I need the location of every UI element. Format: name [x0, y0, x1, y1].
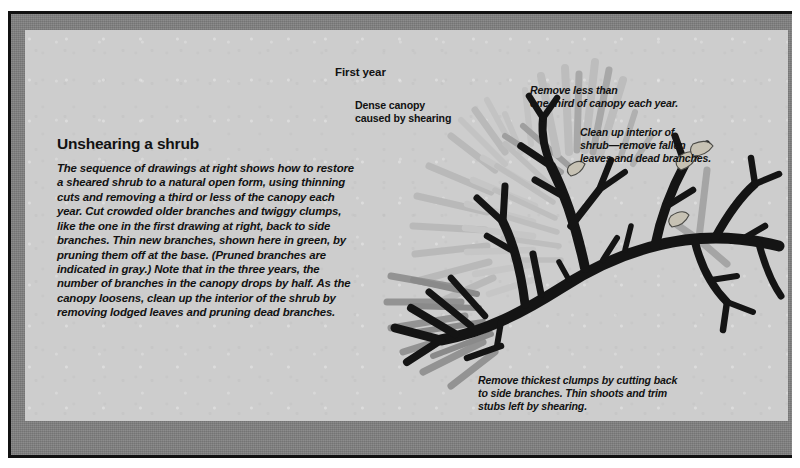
intro-line: cuts and removing a third or less of the…: [57, 190, 345, 204]
illustration-page: Unshearing a shrub The sequence of drawi…: [0, 0, 800, 468]
callout-line: Dense canopy: [355, 99, 451, 112]
intro-line: year. Cut crowded older branches and twi…: [57, 204, 345, 218]
intro-line: like the one in the first drawing at rig…: [57, 219, 345, 233]
intro-paragraph: The sequence of drawings at right shows …: [57, 161, 345, 320]
callout-remove-one-third: Remove less than one third of canopy eac…: [530, 84, 678, 110]
intro-line: branches. Thin new branches, shown here …: [57, 233, 345, 247]
callout-line: stubs left by shearing.: [478, 400, 677, 413]
callout-line: Clean up interior of: [580, 126, 711, 139]
callout-line: leaves and dead branches.: [580, 152, 711, 165]
stage-label: First year: [335, 66, 386, 78]
intro-line: number of branches in the canopy drops b…: [57, 276, 345, 290]
intro-line: The sequence of drawings at right shows …: [57, 161, 345, 175]
leaf-icon: [669, 212, 689, 227]
callout-remove-thickest-clumps: Remove thickest clumps by cutting back t…: [478, 374, 677, 413]
intro-line: removing lodged leaves and pruning dead …: [57, 305, 345, 319]
artwork-panel: Unshearing a shrub The sequence of drawi…: [25, 30, 788, 421]
callout-line: to side branches. Thin shoots and trim: [478, 387, 677, 400]
callout-line: Remove thickest clumps by cutting back: [478, 374, 677, 387]
intro-line: pruning them off at the base. (Pruned br…: [57, 248, 345, 262]
callout-clean-interior: Clean up interior of shrub—remove fallen…: [580, 126, 711, 165]
page-title: Unshearing a shrub: [57, 135, 347, 152]
intro-line: indicated in gray.) Note that in the thr…: [57, 262, 345, 276]
callout-line: shrub—remove fallen: [580, 139, 711, 152]
callout-line: caused by shearing: [355, 112, 451, 125]
callout-dense-canopy: Dense canopy caused by shearing: [355, 99, 451, 125]
callout-line: Remove less than: [530, 84, 678, 97]
intro-line: a sheared shrub to a natural open form, …: [57, 175, 345, 189]
callout-line: one third of canopy each year.: [530, 97, 678, 110]
intro-line: canopy loosens, clean up the interior of…: [57, 291, 345, 305]
